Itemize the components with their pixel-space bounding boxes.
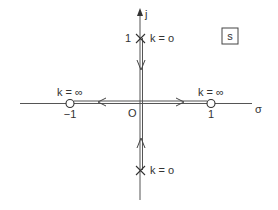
locus-arrow-left-icon: [98, 98, 106, 106]
imag-axis-label: j: [144, 8, 147, 20]
real-axis-label: σ: [255, 103, 262, 115]
lower-pole-gain-label: k = o: [150, 164, 174, 176]
locus-arrow-down-icon: [137, 60, 145, 70]
upper-pole-gain-label: k = o: [150, 32, 174, 44]
locus-arrow-right-icon: [176, 98, 184, 106]
locus-arrow-up-icon: [137, 138, 145, 148]
origin-label: O: [128, 107, 137, 119]
zero-left-icon: [66, 100, 74, 108]
s-plane-label: s: [227, 30, 233, 42]
left-zero-gain-label: k = ∞: [57, 86, 83, 98]
zero-right-icon: [207, 100, 215, 108]
right-zero-tick-label: 1: [208, 108, 214, 120]
right-zero-gain-label: k = ∞: [198, 86, 224, 98]
root-locus-diagram: s j σ O 1 k = o k = o k = ∞ −1 k = ∞ 1: [0, 0, 278, 210]
left-zero-tick-label: −1: [64, 108, 77, 120]
imaginary-axis-arrow-icon: [137, 8, 143, 16]
upper-pole-tick-label: 1: [125, 32, 131, 44]
